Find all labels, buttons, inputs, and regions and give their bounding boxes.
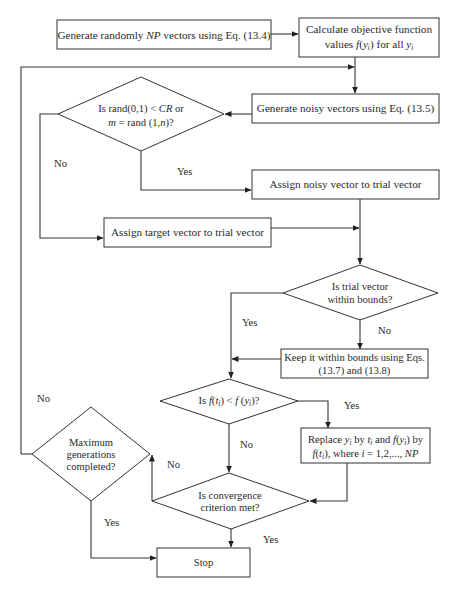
- label-maxgen-yes: Yes: [104, 517, 119, 528]
- maxgen-line2: generations: [67, 449, 116, 460]
- arrow-replace-to-convergence: [310, 463, 347, 501]
- crossover-line2: m = rand (1,n)?: [108, 117, 174, 129]
- node-replace: Replace yi by ti and f(yi) by f(ti), whe…: [301, 428, 430, 463]
- arrow-maxgen-yes: [91, 501, 156, 558]
- arrow-selection-yes: [298, 401, 328, 428]
- crossover-line1: Is rand(0,1) < CR or: [98, 103, 184, 115]
- node-max-gen-check: Maximum generations completed?: [32, 407, 150, 501]
- node-init: Generate randomly NP vectors using Eq. (…: [57, 20, 271, 49]
- noisy-text: Generate noisy vectors using Eq. (13.5): [257, 102, 435, 115]
- init-text-b: vectors using Eq. (13.4): [161, 29, 271, 42]
- label-crossover-no: No: [54, 158, 67, 169]
- node-selection-check: Is f(ti) < f (yi)?: [160, 379, 298, 424]
- keep-line1: Keep it within bounds using Eqs.: [284, 352, 425, 363]
- node-assign-target: Assign target vector to trial vector: [104, 218, 271, 247]
- label-selection-no: No: [240, 439, 253, 450]
- evaluate-line1: Calculate objective function: [306, 23, 433, 35]
- node-keep-bounds: Keep it within bounds using Eqs. (13.7) …: [281, 349, 428, 378]
- node-convergence-check: Is convergence criterion met?: [152, 473, 309, 529]
- assign-target-text: Assign target vector to trial vector: [111, 226, 264, 238]
- stop-text: Stop: [194, 557, 213, 568]
- label-convergence-no: No: [167, 459, 180, 470]
- node-noisy: Generate noisy vectors using Eq. (13.5): [252, 94, 439, 123]
- node-crossover-check: Is rand(0,1) < CR or m = rand (1,n)?: [58, 77, 224, 151]
- maxgen-line3: completed?: [67, 461, 116, 472]
- label-maxgen-no: No: [37, 393, 50, 404]
- label-convergence-yes: Yes: [263, 534, 278, 545]
- node-assign-noisy: Assign noisy vector to trial vector: [252, 170, 439, 199]
- keep-line2: (13.7) and (13.8): [319, 365, 391, 377]
- assign-noisy-text: Assign noisy vector to trial vector: [270, 178, 422, 190]
- label-selection-yes: Yes: [344, 400, 359, 411]
- evaluate-line2: values f(yi) for all yi: [325, 38, 414, 52]
- arrow-crossover-yes: [141, 151, 251, 190]
- init-text-np: NP: [145, 29, 160, 41]
- node-bounds-check: Is trial vector within bounds?: [283, 265, 438, 320]
- maxgen-line1: Maximum: [69, 437, 114, 448]
- node-evaluate: Calculate objective function values f(yi…: [299, 18, 439, 57]
- convergence-line2: criterion met?: [200, 502, 259, 513]
- flowchart-canvas: Generate randomly NP vectors using Eq. (…: [0, 0, 458, 595]
- convergence-line1: Is convergence: [198, 490, 262, 501]
- label-bounds-yes: Yes: [242, 317, 257, 328]
- svg-text:Generate randomly NP vectors u: Generate randomly NP vectors using Eq. (…: [57, 29, 270, 42]
- label-bounds-no: No: [378, 325, 391, 336]
- arrow-bounds-yes: [231, 293, 283, 378]
- init-text-a: Generate randomly: [57, 29, 146, 41]
- node-stop: Stop: [157, 548, 250, 577]
- bounds-line2: within bounds?: [327, 294, 392, 305]
- arrow-crossover-no: [40, 114, 103, 238]
- bounds-line1: Is trial vector: [332, 281, 389, 292]
- label-crossover-yes: Yes: [177, 166, 192, 177]
